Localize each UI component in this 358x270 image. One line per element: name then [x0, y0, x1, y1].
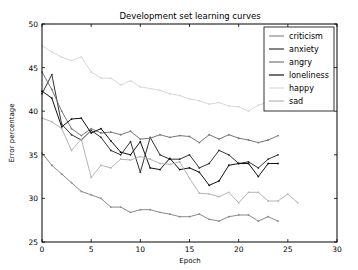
data-point: [139, 209, 141, 211]
data-point: [120, 206, 122, 208]
data-point: [169, 157, 171, 159]
data-point: [159, 163, 161, 165]
data-point: [228, 154, 230, 156]
data-point: [179, 169, 181, 171]
data-point: [110, 206, 112, 208]
data-point: [267, 216, 269, 218]
data-point: [90, 177, 92, 179]
data-point: [277, 154, 279, 156]
x-tick-label: 20: [234, 245, 244, 254]
data-point: [257, 176, 259, 178]
data-point: [61, 128, 63, 130]
data-point: [179, 161, 181, 163]
data-point: [228, 105, 230, 107]
data-point: [257, 142, 259, 144]
data-point: [208, 184, 210, 186]
y-tick-label: 40: [28, 107, 38, 116]
legend: criticismanxietyangrylonelinesshappysad: [264, 27, 334, 111]
y-tick-label: 50: [28, 20, 38, 29]
data-point: [139, 141, 141, 143]
data-point: [51, 74, 53, 76]
data-point: [189, 98, 191, 100]
data-point: [238, 106, 240, 108]
data-point: [218, 196, 220, 198]
data-point: [130, 211, 132, 213]
data-point: [218, 180, 220, 182]
data-point: [80, 191, 82, 193]
legend-label-anxiety: anxiety: [289, 45, 319, 54]
data-point: [110, 167, 112, 169]
data-point: [248, 214, 250, 216]
data-point: [71, 150, 73, 152]
data-point: [120, 151, 122, 153]
data-point: [90, 194, 92, 196]
data-point: [228, 216, 230, 218]
data-point: [169, 93, 171, 95]
data-point: [51, 51, 53, 53]
data-point: [130, 80, 132, 82]
data-point: [159, 154, 161, 156]
data-point: [139, 86, 141, 88]
data-point: [110, 131, 112, 133]
data-point: [149, 167, 151, 169]
data-point: [71, 60, 73, 62]
data-point: [267, 139, 269, 141]
data-point: [61, 110, 63, 112]
data-point: [198, 171, 200, 173]
data-point: [257, 191, 259, 193]
x-tick-label: 15: [185, 245, 195, 254]
data-point: [80, 117, 82, 119]
data-point: [149, 88, 151, 90]
series-line: [42, 46, 298, 111]
x-tick-label: 30: [332, 245, 342, 254]
data-point: [267, 200, 269, 202]
data-point: [228, 164, 230, 166]
data-point: [71, 118, 73, 120]
data-point: [198, 213, 200, 215]
data-point: [208, 134, 210, 136]
data-point: [100, 136, 102, 138]
data-point: [80, 56, 82, 58]
data-point: [228, 134, 230, 136]
series-sad: [41, 117, 298, 203]
data-point: [248, 161, 250, 163]
data-point: [149, 209, 151, 211]
data-point: [139, 156, 141, 158]
data-point: [248, 110, 250, 112]
data-point: [198, 192, 200, 194]
y-tick-label: 35: [28, 151, 38, 160]
data-point: [189, 216, 191, 218]
data-point: [277, 135, 279, 137]
x-axis-label: Epoch: [179, 257, 200, 265]
data-point: [277, 220, 279, 222]
data-point: [208, 218, 210, 220]
data-point: [198, 167, 200, 169]
data-point: [149, 137, 151, 139]
data-point: [61, 56, 63, 58]
data-point: [139, 138, 141, 140]
y-tick-label: 25: [28, 238, 38, 247]
data-point: [169, 136, 171, 138]
data-point: [130, 130, 132, 132]
data-point: [179, 158, 181, 160]
plot-area: [41, 45, 298, 222]
data-point: [51, 89, 53, 91]
series-happy: [41, 45, 298, 112]
chart-title: Development set learning curves: [119, 11, 261, 21]
x-tick-label: 5: [89, 245, 94, 254]
data-point: [120, 154, 122, 156]
legend-label-happy: happy: [289, 84, 314, 93]
data-point: [71, 134, 73, 136]
legend-label-sad: sad: [289, 97, 303, 106]
data-point: [208, 163, 210, 165]
data-point: [80, 138, 82, 140]
x-tick-label: 25: [283, 245, 293, 254]
data-point: [120, 134, 122, 136]
data-point: [80, 135, 82, 137]
data-point: [198, 100, 200, 102]
data-point: [169, 163, 171, 165]
data-point: [130, 154, 132, 156]
data-point: [189, 167, 191, 169]
data-point: [189, 136, 191, 138]
data-point: [238, 214, 240, 216]
